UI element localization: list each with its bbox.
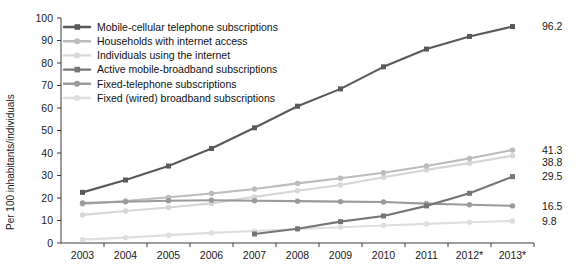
x-tick-label: 2013* [499,249,526,261]
data-point-marker [381,223,386,228]
data-point-marker [510,153,515,158]
data-point-marker [80,190,85,195]
data-point-marker [80,237,85,242]
data-point-marker [510,147,515,152]
data-point-marker [338,182,343,187]
x-axis-ticks: 2003200420052006200720082009201020112012… [71,243,534,261]
data-point-marker [424,163,429,168]
data-point-marker [209,198,214,203]
data-point-marker [295,188,300,193]
data-point-marker [381,199,386,204]
data-point-marker [295,181,300,186]
data-point-marker [338,225,343,230]
data-point-marker [166,232,171,237]
x-tick-label: 2003 [71,249,95,261]
legend-marker [74,81,80,87]
data-point-marker [467,202,472,207]
x-tick-label: 2009 [329,249,353,261]
data-point-marker [338,199,343,204]
end-value-label: 41.3 [542,144,563,156]
data-point-marker [467,34,472,39]
data-point-marker [338,176,343,181]
legend-label: Fixed (wired) broadband subscriptions [97,92,275,104]
data-point-marker [338,86,343,91]
legend-item-4[interactable]: Fixed-telephone subscriptions [64,78,237,90]
y-tick-label: 0 [47,237,53,249]
end-value-label: 29.5 [542,170,563,182]
legend-marker [74,52,80,58]
x-tick-label: 2012* [456,249,483,261]
y-tick-label: 50 [41,124,53,136]
y-axis-title: Per 100 inhabitants/individuals [5,94,16,230]
data-point-marker [467,160,472,165]
data-point-marker [80,212,85,217]
data-point-marker [252,125,257,130]
x-tick-label: 2011 [415,249,438,261]
y-tick-label: 70 [41,79,53,91]
chart-container: Per 100 inhabitants/individuals 01020304… [0,0,583,278]
data-point-marker [295,226,300,231]
x-tick-label: 2010 [372,249,396,261]
data-point-marker [252,232,257,237]
data-point-marker [338,219,343,224]
data-point-marker [381,214,386,219]
data-point-marker [467,220,472,225]
data-point-marker [510,174,515,179]
y-axis-title-label: Per 100 inhabitants/individuals [5,94,16,230]
data-point-marker [510,218,515,223]
y-tick-label: 60 [41,102,53,114]
legend-label: Households with internet access [97,35,248,47]
data-point-marker [467,191,472,196]
y-tick-label: 40 [41,147,53,159]
data-point-marker [80,200,85,205]
data-point-marker [166,164,171,169]
series-1 [80,147,515,206]
data-point-marker [295,104,300,109]
end-value-label: 9.8 [542,215,557,227]
legend-marker [75,24,81,30]
x-tick-label: 2008 [286,249,310,261]
legend-item-0[interactable]: Mobile-cellular telephone subscriptions [64,21,278,33]
data-point-marker [381,170,386,175]
data-point-marker [166,205,171,210]
y-tick-label: 10 [41,214,53,226]
data-point-marker [295,198,300,203]
end-value-label: 38.8 [542,156,563,168]
y-tick-label: 80 [41,57,53,69]
data-point-marker [424,47,429,52]
legend-marker [74,38,80,44]
legend-label: Individuals using the internet [97,49,230,61]
x-tick-label: 2005 [157,249,181,261]
legend-marker [75,67,81,73]
data-point-marker [467,156,472,161]
y-tick-label: 100 [35,12,53,24]
y-tick-label: 30 [41,169,53,181]
data-point-marker [252,186,257,191]
data-point-marker [510,203,515,208]
chart-legend: Mobile-cellular telephone subscriptionsH… [64,21,278,104]
legend-item-3[interactable]: Active mobile-broadband subscriptions [64,63,277,75]
data-point-marker [166,198,171,203]
legend-label: Mobile-cellular telephone subscriptions [97,21,278,33]
data-point-marker [123,178,128,183]
data-point-marker [209,191,214,196]
data-point-marker [123,235,128,240]
x-tick-label: 2007 [243,249,267,261]
data-point-marker [381,64,386,69]
y-tick-label: 20 [41,192,53,204]
data-point-marker [424,203,429,208]
legend-label: Active mobile-broadband subscriptions [97,63,277,75]
x-tick-label: 2004 [114,249,138,261]
legend-marker [74,95,80,101]
legend-item-1[interactable]: Households with internet access [64,35,248,47]
data-point-marker [123,208,128,213]
legend-item-2[interactable]: Individuals using the internet [64,49,230,61]
end-value-label: 16.5 [542,200,563,212]
data-point-marker [209,146,214,151]
data-point-marker [424,221,429,226]
series-line [83,150,513,204]
legend-label: Fixed-telephone subscriptions [97,78,237,90]
x-tick-label: 2006 [200,249,224,261]
legend-item-5[interactable]: Fixed (wired) broadband subscriptions [64,92,275,104]
data-point-marker [209,230,214,235]
